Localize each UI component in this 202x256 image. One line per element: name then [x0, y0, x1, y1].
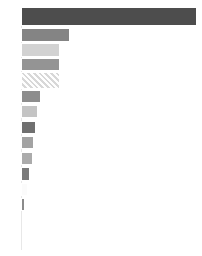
- bar-row-11[interactable]: [21, 167, 30, 181]
- bar-chart-figure: [0, 0, 202, 256]
- bar-row-2[interactable]: [21, 28, 70, 42]
- bar-row-3[interactable]: [21, 43, 60, 57]
- bar-row-5[interactable]: [21, 72, 60, 89]
- bar-row-10[interactable]: [21, 152, 33, 165]
- bar-row-7[interactable]: [21, 105, 38, 118]
- bar-row-6[interactable]: [21, 90, 41, 103]
- plot-area: [0, 0, 202, 256]
- bar-row-12[interactable]: [21, 183, 28, 196]
- bar-row-4[interactable]: [21, 58, 60, 71]
- bar-row-13[interactable]: [21, 198, 25, 211]
- bar-row-1[interactable]: [21, 7, 197, 26]
- bar-row-9[interactable]: [21, 136, 34, 149]
- bar-row-8[interactable]: [21, 121, 36, 134]
